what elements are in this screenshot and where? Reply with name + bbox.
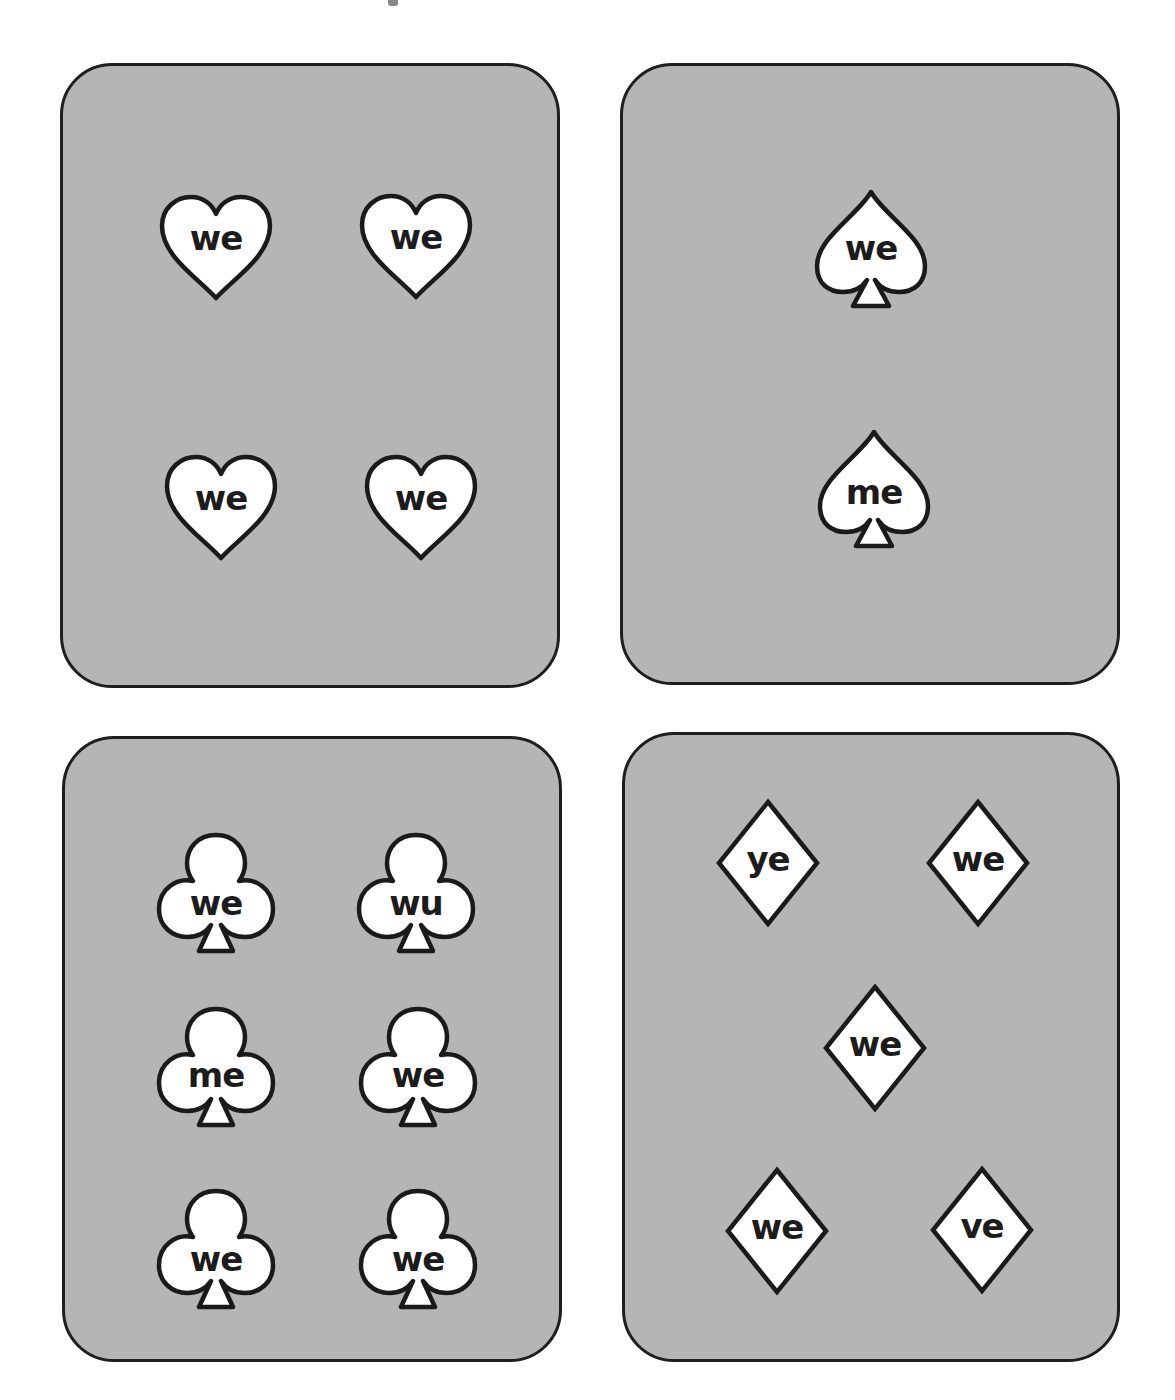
symbol-word: we — [163, 478, 279, 518]
symbol-word: we — [813, 228, 929, 268]
symbol-word: me — [155, 1055, 277, 1095]
diamond-symbol: we — [725, 1167, 829, 1295]
card-clubs[interactable]: we wu me we we we — [62, 736, 562, 1362]
diamond-symbol: we — [823, 984, 927, 1112]
symbol-word: we — [155, 883, 277, 923]
club-symbol: wu — [355, 831, 477, 955]
heart-symbol: we — [358, 193, 474, 301]
spade-symbol: me — [816, 428, 932, 550]
symbol-word: ve — [930, 1206, 1034, 1246]
diamond-symbol: ve — [930, 1166, 1034, 1294]
card-diamonds[interactable]: ye we we we ve — [622, 732, 1120, 1362]
club-symbol: we — [155, 1187, 277, 1311]
club-symbol: we — [357, 1005, 479, 1129]
symbol-word: we — [357, 1055, 479, 1095]
cropped-glyph-fragment — [388, 0, 398, 6]
symbol-word: we — [926, 839, 1030, 879]
card-spades[interactable]: we me — [620, 63, 1120, 685]
symbol-word: we — [158, 218, 274, 258]
symbol-word: we — [155, 1239, 277, 1279]
symbol-word: wu — [355, 883, 477, 923]
heart-symbol: we — [163, 454, 279, 562]
symbol-word: we — [823, 1024, 927, 1064]
card-hearts[interactable]: we we we we — [60, 63, 560, 688]
symbol-word: me — [816, 472, 932, 512]
club-symbol: we — [155, 831, 277, 955]
club-symbol: me — [155, 1005, 277, 1129]
symbol-word: we — [363, 478, 479, 518]
diamond-symbol: ye — [716, 799, 820, 927]
club-symbol: we — [357, 1187, 479, 1311]
symbol-word: we — [357, 1239, 479, 1279]
heart-symbol: we — [158, 194, 274, 302]
heart-symbol: we — [363, 454, 479, 562]
spade-symbol: we — [813, 188, 929, 310]
symbol-word: ye — [716, 839, 820, 879]
diamond-symbol: we — [926, 799, 1030, 927]
symbol-word: we — [725, 1207, 829, 1247]
symbol-word: we — [358, 217, 474, 257]
